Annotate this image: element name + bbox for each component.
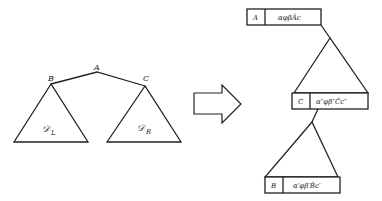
right-subtree-subscript: R — [145, 128, 152, 136]
box-c-label: α″φβ″Ĉc″ — [316, 97, 347, 106]
box-c-name: C — [298, 98, 304, 106]
right-subtree-triangle — [107, 86, 181, 142]
node-label-c: C — [143, 74, 149, 83]
box-a-label: αφβÂc — [278, 13, 301, 22]
node-label-a: A — [93, 63, 100, 72]
left-tree — [14, 72, 181, 142]
left-subtree-subscript: L — [50, 129, 56, 137]
box-b-name: B — [270, 182, 276, 190]
box-a-name: A — [252, 14, 258, 22]
root-edges — [51, 72, 145, 86]
subtree-triangle-lower — [265, 122, 338, 177]
node-label-b: B — [47, 74, 54, 83]
subtree-triangle-upper — [294, 38, 368, 93]
box-b-label: α′φβ′B̂c′ — [293, 181, 321, 190]
right-structure — [247, 9, 368, 193]
tree-transformation-diagram: A B C 𝒟 L 𝒟 R A αφβÂc C α″φβ″Ĉc″ B α′φβ′… — [0, 0, 382, 201]
right-subtree-label: 𝒟 — [137, 123, 146, 133]
left-subtree-label: 𝒟 — [42, 124, 51, 134]
right-arrow-icon — [194, 85, 241, 123]
